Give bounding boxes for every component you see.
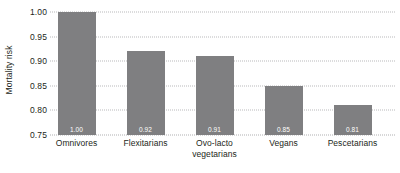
bar-value-label: 0.81 xyxy=(334,126,372,133)
x-axis-category-label-line: Pescetarians xyxy=(328,138,378,148)
bar: 0.81 xyxy=(334,105,372,135)
bar-group: 1.00 xyxy=(58,12,96,135)
y-axis-tick-label: 0.80 xyxy=(30,105,47,115)
bar-group: 0.81 xyxy=(334,12,372,135)
bar: 0.91 xyxy=(196,56,234,135)
bar: 1.00 xyxy=(58,12,96,135)
bar: 0.92 xyxy=(127,51,165,135)
x-axis-category-label-line: Vegans xyxy=(269,138,298,148)
plot-area: 1.000.920.910.850.81 xyxy=(50,12,395,135)
bars: 1.000.920.910.850.81 xyxy=(50,12,395,135)
mortality-risk-bar-chart: Mortality risk 0.750.800.850.900.951.00 … xyxy=(0,0,400,173)
x-axis-category-label-line: Ovo-lacto xyxy=(196,138,233,148)
x-axis-category-label-line: Omnivores xyxy=(56,138,98,148)
y-axis-tick-labels: 0.750.800.850.900.951.00 xyxy=(18,0,50,140)
y-axis-tick-label: 0.90 xyxy=(30,56,47,66)
bar: 0.85 xyxy=(265,86,303,135)
x-axis-category-labels: OmnivoresFlexitariansOvo-lactovegetarian… xyxy=(50,138,395,172)
y-axis-title: Mortality risk xyxy=(0,0,18,140)
bar-value-label: 0.85 xyxy=(265,126,303,133)
bar-value-label: 0.91 xyxy=(196,126,234,133)
x-axis-category-label-line: vegetarians xyxy=(172,149,258,160)
bar-value-label: 1.00 xyxy=(58,126,96,133)
y-axis-tick-label: 1.00 xyxy=(30,7,47,17)
bar-group: 0.85 xyxy=(265,12,303,135)
bar-group: 0.91 xyxy=(196,12,234,135)
x-axis-category-label-line: Flexitarians xyxy=(123,138,167,148)
bar-value-label: 0.92 xyxy=(127,126,165,133)
y-axis-title-text: Mortality risk xyxy=(4,45,14,94)
bar-group: 0.92 xyxy=(127,12,165,135)
x-axis-category-label: Pescetarians xyxy=(310,138,396,149)
y-axis-tick-label: 0.95 xyxy=(30,32,47,42)
y-axis-tick-label: 0.85 xyxy=(30,81,47,91)
